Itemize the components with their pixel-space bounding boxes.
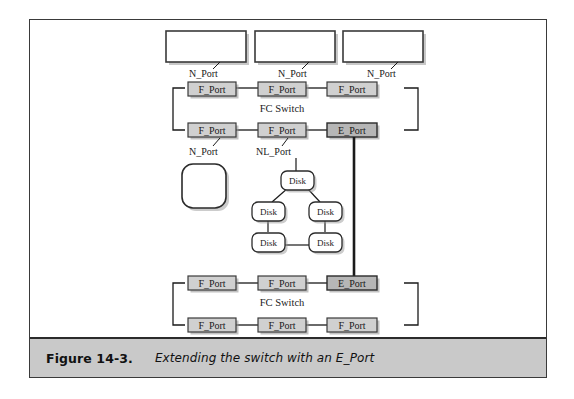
upper-switch-right-wire (404, 88, 418, 130)
disk-3-label: Disk (317, 207, 335, 217)
top-node-boxes (166, 31, 426, 65)
node-box-2[interactable] (255, 31, 335, 62)
diskloop-port-label: NL_Port (256, 146, 291, 157)
lower-top-port-2-label: F_Port (268, 278, 295, 289)
disk-4-label: Disk (260, 238, 278, 248)
upper-top-port-1-label: F_Port (198, 84, 225, 95)
disk-2-label: Disk (260, 207, 278, 217)
lower-bottom-port-1-label: F_Port (198, 320, 225, 331)
figure-frame: N_Port N_Port N_Port (29, 19, 547, 378)
upper-switch-left-wire (173, 88, 185, 130)
upper-top-port-3-label: F_Port (338, 84, 365, 95)
host-device-box[interactable] (182, 164, 226, 208)
lower-switch-right-wire (404, 283, 418, 325)
disk-5-label: Disk (317, 238, 335, 248)
host-device (182, 164, 229, 211)
lower-switch-left-wire (173, 283, 185, 325)
lower-bottom-port-2-label: F_Port (268, 320, 295, 331)
upper-switch-title: FC Switch (260, 103, 305, 114)
figure-caption-label: Figure 14-3. (46, 351, 133, 366)
figure-caption-text: Extending the switch with an E_Port (155, 351, 374, 365)
upper-top-port-2-label: F_Port (268, 84, 295, 95)
upper-switch: F_Port F_Port F_Port FC Switch (173, 82, 418, 140)
lower-top-port-3-label: E_Port (338, 278, 366, 289)
node-1-port-label: N_Port (189, 68, 218, 79)
lower-switch-bottom-row: F_Port F_Port F_Port (188, 318, 380, 335)
upper-bottom-port-2-label: F_Port (268, 125, 295, 136)
node-box-3[interactable] (343, 31, 423, 62)
host-port-label: N_Port (189, 146, 218, 157)
node-2-port-label: N_Port (278, 68, 307, 79)
node-box-1[interactable] (166, 31, 246, 62)
node-3-port-label: N_Port (367, 68, 396, 79)
lower-top-port-1-label: F_Port (198, 278, 225, 289)
upper-switch-bottom-row: F_Port F_Port E_Port (188, 123, 380, 140)
network-topology-diagram: N_Port N_Port N_Port (30, 20, 548, 338)
disk-1-label: Disk (289, 176, 307, 186)
upper-bottom-port-1-label: F_Port (198, 125, 225, 136)
lower-switch: F_Port F_Port E_Port FC Switch F_Port (173, 276, 418, 335)
figure-page: N_Port N_Port N_Port (0, 0, 574, 399)
upper-bottom-port-3-label: E_Port (338, 125, 366, 136)
lower-bottom-port-3-label: F_Port (338, 320, 365, 331)
lower-switch-top-row: F_Port F_Port E_Port (188, 276, 380, 293)
disk-loop: Disk Disk Disk Disk Disk (252, 171, 345, 255)
lower-switch-title: FC Switch (260, 297, 305, 308)
figure-caption-band: Figure 14-3. Extending the switch with a… (30, 337, 546, 377)
upper-switch-top-row: F_Port F_Port F_Port (188, 82, 380, 99)
